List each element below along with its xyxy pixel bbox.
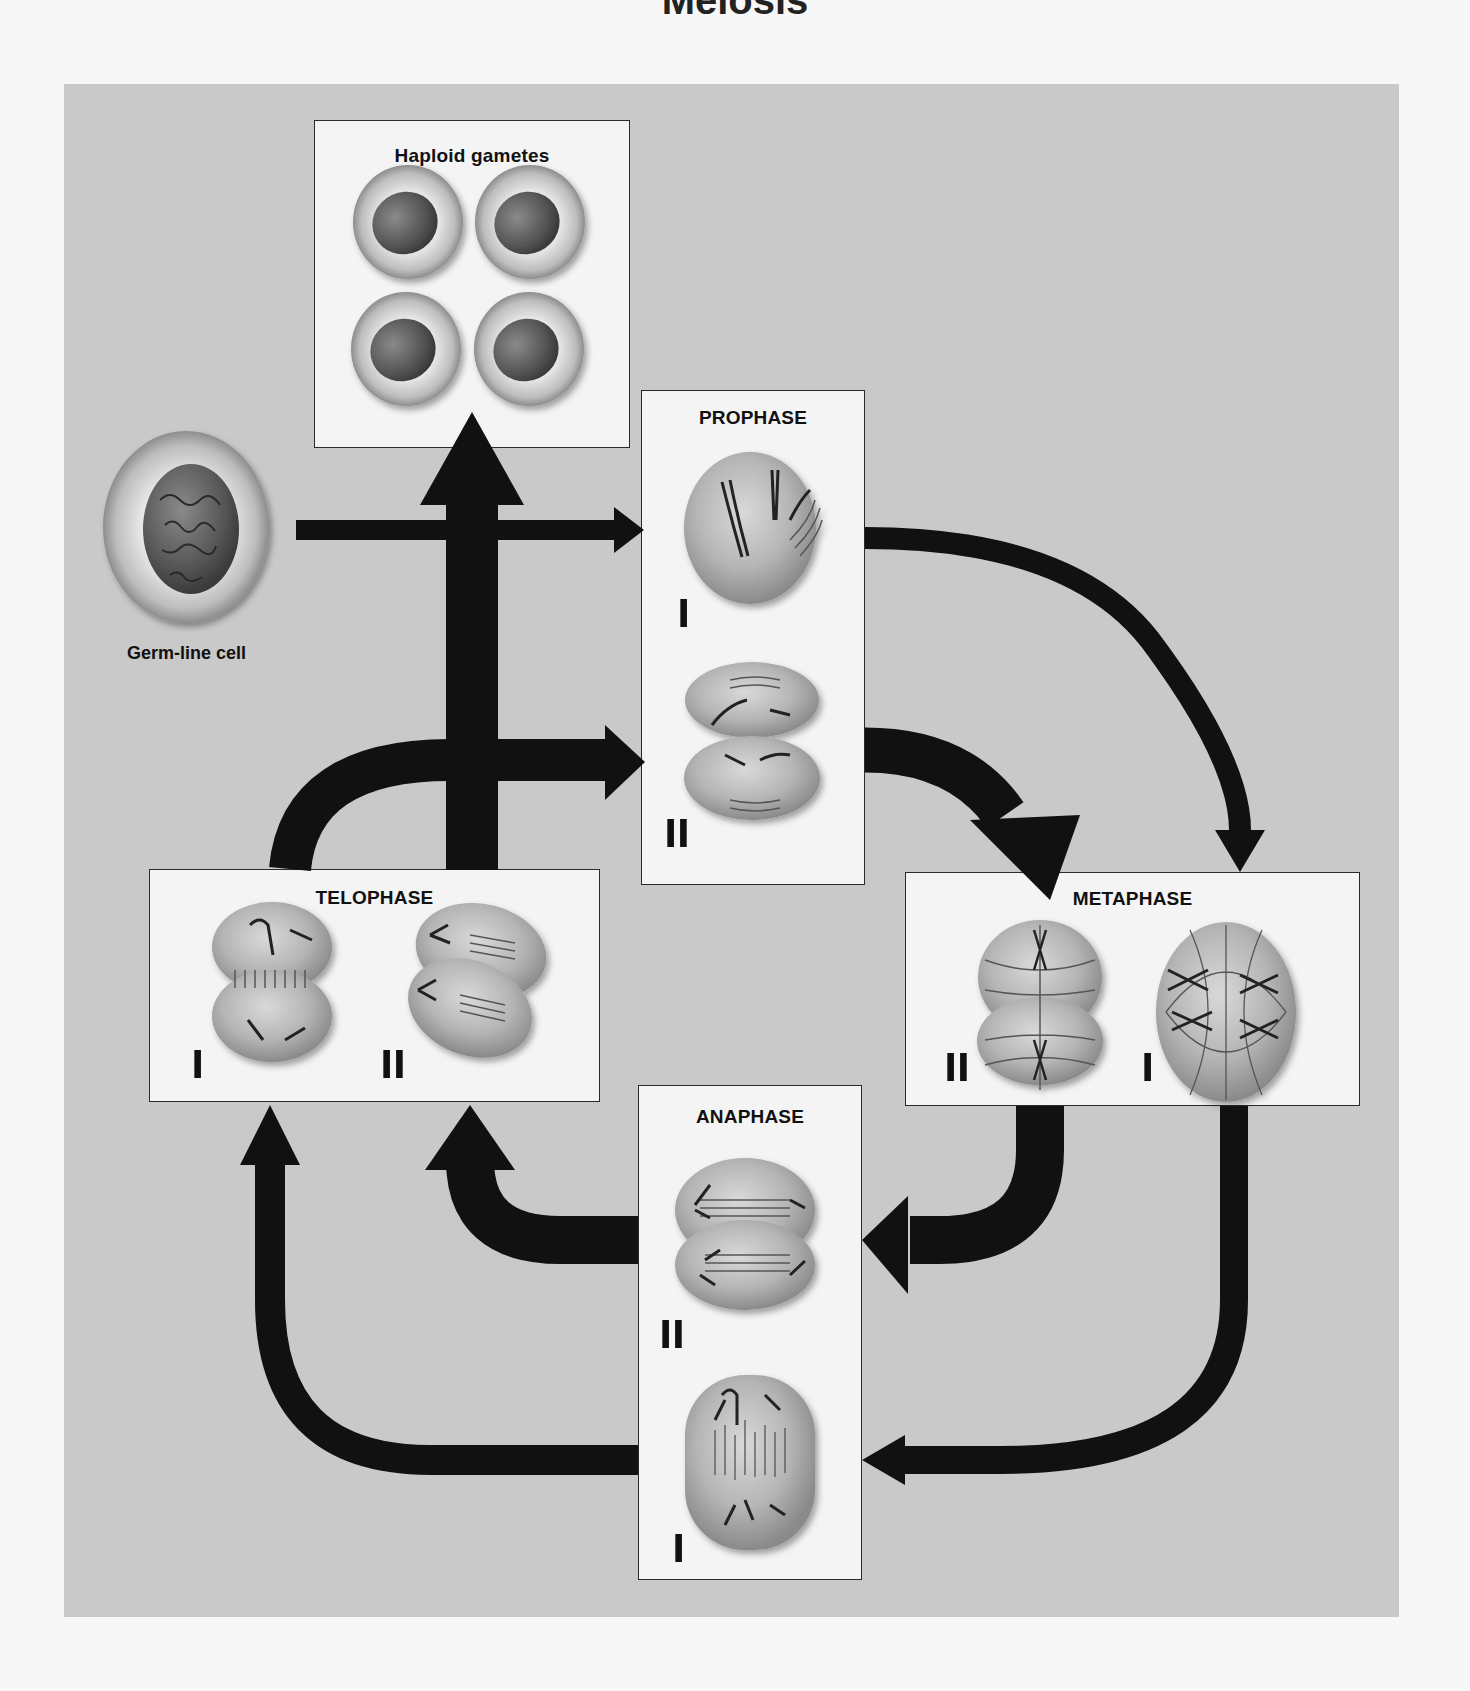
arrow-prophase-i-to-metaphase-i	[865, 538, 1240, 830]
arrow-prophase-ii-to-metaphase-ii	[865, 750, 1005, 815]
arrow-telophase-ii-to-gametes-shaft	[446, 505, 498, 870]
prophase-ii-cell	[684, 662, 820, 820]
arrow-metaphase-i-to-anaphase-i	[905, 1106, 1234, 1460]
anaphase-i-cell	[685, 1375, 815, 1550]
anaphase-ii-cell	[675, 1158, 815, 1310]
haploid-gamete-cells	[351, 165, 585, 406]
prophase-i-cell	[684, 452, 822, 604]
telophase-i-cell	[212, 902, 332, 1062]
telophase-ii-cell	[393, 891, 555, 1075]
arrow-anaphase-ii-to-telophase-ii	[470, 1160, 638, 1240]
metaphase-ii-cell	[977, 920, 1103, 1090]
germ-line-cell-graphic	[103, 431, 269, 623]
diagram-graphics	[0, 0, 1470, 1691]
arrow-telophase-ii-to-gametes-head	[420, 412, 524, 505]
metaphase-i-cell	[1156, 922, 1296, 1102]
arrow-metaphase-ii-to-anaphase-ii	[910, 1106, 1040, 1240]
arrow-telophase-i-to-prophase-ii-head	[605, 725, 645, 800]
